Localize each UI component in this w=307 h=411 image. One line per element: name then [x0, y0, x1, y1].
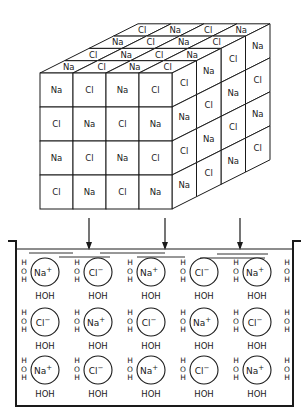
label: Na [227, 156, 239, 166]
label: H [284, 325, 290, 334]
label: HOH [194, 291, 213, 301]
water-molecule-vertical: HOH [284, 258, 290, 284]
water-molecule-vertical: HOH [21, 258, 27, 284]
chloride-ion: Cl−HOH [190, 258, 218, 301]
label: HOH [194, 341, 213, 351]
sodium-ion: Na+HOH [31, 258, 59, 301]
label: Cl [155, 50, 163, 60]
sodium-ion: Na+HOH [31, 356, 59, 399]
chloride-ion: Cl−HOH [137, 308, 165, 351]
label: H [180, 325, 186, 334]
label: Na [169, 25, 181, 35]
label: Cl [229, 122, 237, 132]
label: Cl [180, 78, 188, 88]
label: H [233, 325, 239, 334]
label: HOH [247, 291, 266, 301]
label: Cl [213, 37, 221, 47]
label: Na [129, 62, 141, 72]
dissolve-arrows [86, 218, 243, 250]
label: Na [51, 153, 63, 163]
water-molecule-vertical: HOH [127, 356, 133, 382]
chloride-ion: Cl−HOH [190, 356, 218, 399]
label: Na [51, 85, 63, 95]
water-molecule-vertical: HOH [233, 308, 239, 334]
nacl-dissolution-diagram: ClNaClNaNaClNaClClNaClNaNaClNaClNaClNaCl… [0, 0, 307, 411]
label: Na [178, 112, 190, 122]
label: Cl [52, 187, 60, 197]
label: Na [117, 85, 129, 95]
label: H [74, 275, 80, 284]
label: Cl [204, 25, 212, 35]
label: H [21, 275, 27, 284]
water-molecule-vertical: HOH [180, 258, 186, 284]
label: HOH [247, 389, 266, 399]
label: Na [186, 50, 198, 60]
solvated-ions: HOHHOHHOHHOHHOHHOHNa+HOHCl−HOHNa+HOHCl−H… [21, 258, 290, 399]
label: Cl [118, 187, 126, 197]
label: H [74, 325, 80, 334]
chloride-ion: Cl−HOH [31, 308, 59, 351]
water-molecule-vertical: HOH [127, 308, 133, 334]
chloride-ion: Cl−HOH [84, 356, 112, 399]
label: Na [252, 41, 264, 51]
label: Cl [138, 25, 146, 35]
label: Cl [147, 37, 155, 47]
nacl-crystal-cube: ClNaClNaNaClNaClClNaClNaNaClNaClNaClNaCl… [40, 24, 270, 209]
label: HOH [35, 341, 54, 351]
sodium-ion: Na+HOH [190, 308, 218, 351]
label: H [233, 275, 239, 284]
label: Cl [254, 75, 262, 85]
label: H [180, 275, 186, 284]
water-molecule-vertical: HOH [180, 356, 186, 382]
label: HOH [88, 291, 107, 301]
water-molecule-vertical: HOH [74, 356, 80, 382]
sodium-ion: Na+HOH [84, 308, 112, 351]
label: Cl [254, 143, 262, 153]
label: HOH [35, 291, 54, 301]
water-molecule-vertical: HOH [233, 258, 239, 284]
label: HOH [141, 389, 160, 399]
label: H [284, 275, 290, 284]
sodium-ion: Na+HOH [137, 356, 165, 399]
label: Na [203, 134, 215, 144]
label: Na [84, 119, 96, 129]
water-molecule-vertical: HOH [284, 308, 290, 334]
label: Cl [229, 54, 237, 64]
chloride-ion: Cl−HOH [243, 308, 271, 351]
label: Cl [205, 100, 213, 110]
label: Na [112, 37, 124, 47]
label: HOH [194, 389, 213, 399]
water-molecule-vertical: HOH [233, 356, 239, 382]
label: Na [150, 119, 162, 129]
label: H [21, 373, 27, 382]
label: Na [150, 187, 162, 197]
label: H [21, 325, 27, 334]
label: HOH [141, 291, 160, 301]
label: H [233, 373, 239, 382]
label: H [127, 275, 133, 284]
sodium-ion: Na+HOH [243, 258, 271, 301]
label: Na [178, 180, 190, 190]
label: H [127, 325, 133, 334]
label: Cl [98, 62, 106, 72]
water-molecule-vertical: HOH [21, 308, 27, 334]
label: Cl [85, 153, 93, 163]
label: Na [227, 88, 239, 98]
label: Cl [151, 153, 159, 163]
label: Cl [164, 62, 172, 72]
water-molecule-vertical: HOH [284, 356, 290, 382]
sodium-ion: Na+HOH [243, 356, 271, 399]
label: Cl [151, 85, 159, 95]
label: H [180, 373, 186, 382]
label: H [127, 373, 133, 382]
label: HOH [88, 389, 107, 399]
chloride-ion: Cl−HOH [84, 258, 112, 301]
label: H [74, 373, 80, 382]
water-molecule-vertical: HOH [127, 258, 133, 284]
label: Na [235, 25, 247, 35]
water-molecule-vertical: HOH [74, 258, 80, 284]
label: Na [63, 62, 75, 72]
label: Na [84, 187, 96, 197]
label: Na [252, 109, 264, 119]
arrow-down-icon [86, 218, 92, 250]
